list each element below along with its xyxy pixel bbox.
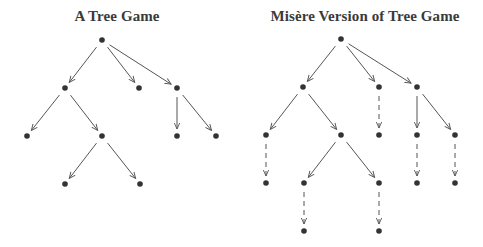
move-arrow bbox=[69, 47, 96, 82]
move-arrow bbox=[108, 143, 136, 178]
move-arrow bbox=[69, 143, 96, 178]
move-arrow bbox=[347, 142, 375, 177]
tree-node bbox=[136, 85, 142, 91]
tree-node bbox=[414, 84, 420, 90]
tree-node bbox=[414, 132, 420, 138]
tree-node bbox=[376, 228, 382, 234]
tree-node bbox=[62, 181, 68, 187]
tree-node bbox=[452, 180, 458, 186]
tree-node bbox=[301, 228, 307, 234]
tree-node bbox=[376, 84, 382, 90]
tree-node bbox=[24, 133, 30, 139]
tree-node bbox=[338, 36, 344, 42]
move-arrow bbox=[183, 95, 212, 131]
tree-node bbox=[174, 133, 180, 139]
tree-node bbox=[301, 180, 307, 186]
tree-node bbox=[376, 132, 382, 138]
move-arrow bbox=[349, 44, 411, 83]
tree-node bbox=[263, 180, 269, 186]
tree-node bbox=[300, 84, 306, 90]
tree-diagrams bbox=[0, 0, 483, 247]
tree-node bbox=[99, 37, 105, 43]
move-arrow bbox=[70, 95, 97, 130]
move-arrow bbox=[110, 45, 172, 84]
move-arrow bbox=[308, 142, 335, 177]
tree-node bbox=[263, 132, 269, 138]
move-arrow bbox=[423, 94, 451, 129]
tree-node bbox=[62, 85, 68, 91]
move-arrow bbox=[31, 95, 59, 130]
tree-node bbox=[338, 132, 344, 138]
tree-node bbox=[452, 132, 458, 138]
tree-node bbox=[376, 180, 382, 186]
misere-tree-game-diagram bbox=[263, 36, 458, 234]
move-arrow bbox=[270, 94, 297, 129]
tree-node bbox=[213, 133, 219, 139]
move-arrow bbox=[309, 94, 337, 129]
move-arrow bbox=[307, 46, 335, 81]
tree-node bbox=[137, 181, 143, 187]
tree-node bbox=[414, 180, 420, 186]
tree-game-diagram bbox=[24, 37, 219, 187]
tree-node bbox=[99, 133, 105, 139]
tree-node bbox=[174, 85, 180, 91]
